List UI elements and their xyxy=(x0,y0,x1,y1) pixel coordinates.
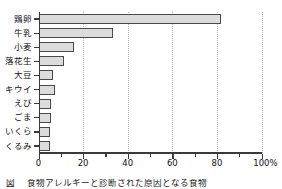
y-axis-label-9: くるみ xyxy=(0,142,32,151)
bar-row xyxy=(39,125,51,139)
bar-row xyxy=(39,54,64,68)
y-axis-label-6: えび xyxy=(0,99,32,108)
x-axis-minor-tick xyxy=(195,154,196,157)
y-axis-tick xyxy=(34,61,39,62)
y-axis-label-2: 小麦 xyxy=(0,43,32,52)
y-axis-tick xyxy=(34,33,39,34)
bar-ebi xyxy=(39,99,52,109)
bar-row xyxy=(39,26,113,40)
bar-row xyxy=(39,68,54,82)
bar-ikura xyxy=(39,127,51,137)
bar-keiran xyxy=(39,14,221,24)
bar-row xyxy=(39,40,75,54)
y-axis-label-1: 牛乳 xyxy=(0,29,32,38)
y-axis-tick xyxy=(34,47,39,48)
x-axis-minor-tick xyxy=(61,154,62,157)
x-axis-label-2: 40 xyxy=(122,159,133,168)
x-axis-label-3: 60 xyxy=(167,159,178,168)
bar-row xyxy=(39,83,56,97)
y-axis-tick xyxy=(34,75,39,76)
y-axis-label-3: 落花生 xyxy=(0,57,32,66)
x-axis-label-4: 80 xyxy=(211,159,222,168)
y-axis-tick xyxy=(34,89,39,90)
y-axis-label-5: キウイ xyxy=(0,85,32,94)
y-axis-tick xyxy=(34,131,39,132)
y-axis-label-0: 鶏卵 xyxy=(0,15,32,24)
y-axis-tick xyxy=(34,18,39,19)
gridline xyxy=(217,12,218,153)
x-axis-minor-tick xyxy=(239,154,240,157)
bar-row xyxy=(39,111,51,125)
bar-gyunyu xyxy=(39,28,113,38)
bar-kiwi xyxy=(39,85,56,95)
y-axis-tick xyxy=(34,145,39,146)
x-axis-label-0: 0 xyxy=(36,159,41,168)
gridline xyxy=(128,12,129,153)
gridline xyxy=(172,12,173,153)
y-axis-tick xyxy=(34,103,39,104)
plot-area xyxy=(39,12,262,153)
chart-figure: 鶏卵 牛乳 小麦 落花生 大豆 キウイ えび ごま いくら くるみ 0 20 4… xyxy=(0,0,282,189)
bar-kurumi xyxy=(39,141,50,151)
gridline xyxy=(262,12,263,153)
y-axis-label-7: ごま xyxy=(0,113,32,122)
y-axis-tick xyxy=(34,117,39,118)
bar-daizu xyxy=(39,70,54,80)
bar-rakkasei xyxy=(39,56,64,66)
bar-row xyxy=(39,139,50,153)
bar-row xyxy=(39,12,221,26)
figure-caption: 図 食物アレルギーと診断された原因となる食物 xyxy=(6,179,282,189)
x-axis-minor-tick xyxy=(150,154,151,157)
bar-komugi xyxy=(39,42,75,52)
y-axis-line xyxy=(39,12,41,153)
bar-goma xyxy=(39,113,51,123)
bar-row xyxy=(39,97,52,111)
y-axis-label-4: 大豆 xyxy=(0,71,32,80)
x-axis-minor-tick xyxy=(105,154,106,157)
x-axis-label-5: 100% xyxy=(253,159,277,168)
y-axis-label-8: いくら xyxy=(0,127,32,136)
x-axis-label-1: 20 xyxy=(78,159,89,168)
